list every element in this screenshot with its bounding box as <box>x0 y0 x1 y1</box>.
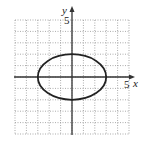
graph: y 5 5 x <box>0 0 153 143</box>
y-axis-arrow-icon <box>70 6 75 12</box>
x-axis-label: x <box>132 77 138 89</box>
y-tick-label: 5 <box>64 14 70 26</box>
x-tick-label: 5 <box>124 78 130 90</box>
